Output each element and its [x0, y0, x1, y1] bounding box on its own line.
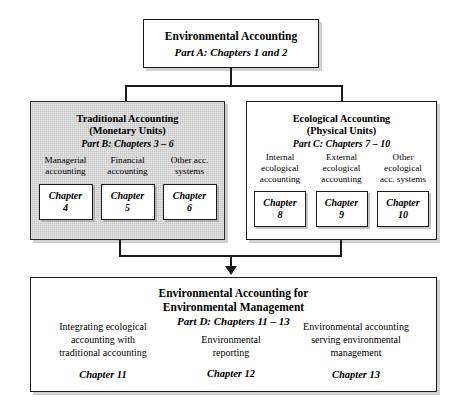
title-box-heading: Environmental Accounting: [144, 30, 318, 44]
chapter-box[interactable]: Chapter 9: [316, 191, 368, 227]
column-label: Financial accounting: [107, 155, 147, 177]
chapter-box[interactable]: Chapter 5: [101, 184, 155, 220]
connector-top-bus: [125, 85, 343, 87]
traditional-part: Part B: Chapters 3 – 6: [31, 138, 224, 150]
traditional-heading-line1: Traditional Accounting: [31, 113, 224, 125]
title-box: Environmental Accounting Part A: Chapter…: [143, 19, 319, 68]
bottom-column-2: Environmental reporting Chapter 12: [176, 333, 286, 379]
traditional-heading-line2: (Monetary Units): [31, 125, 224, 137]
bottom-column-3: Environmental accounting serving environ…: [286, 320, 426, 380]
connector-arrowhead-icon: [225, 266, 237, 275]
column-chapter: Chapter 11: [42, 369, 164, 380]
traditional-columns: Managerial accounting Chapter 4 Financia…: [36, 155, 219, 220]
column-chapter: Chapter 12: [176, 368, 286, 379]
ecological-column: External ecological accounting Chapter 9: [313, 152, 371, 227]
chapter-box[interactable]: Chapter 10: [377, 191, 429, 227]
column-label: Internal ecological accounting: [260, 152, 300, 186]
traditional-column: Managerial accounting Chapter 4: [36, 155, 95, 220]
column-label: Other ecological acc. systems: [380, 152, 426, 186]
diagram-canvas: Environmental Accounting Part A: Chapter…: [0, 0, 468, 409]
ecological-column: Other ecological acc. systems Chapter 10: [374, 152, 432, 227]
title-box-part: Part A: Chapters 1 and 2: [144, 46, 318, 59]
column-label: Environmental reporting: [176, 333, 286, 359]
traditional-column: Financial accounting Chapter 5: [98, 155, 157, 220]
bottom-heading-line2: Environmental Management: [31, 301, 436, 315]
bottom-column-1: Integrating ecological accounting with t…: [42, 320, 164, 380]
column-chapter: Chapter 13: [286, 369, 426, 380]
ecological-part: Part C: Chapters 7 – 10: [247, 138, 436, 150]
ecological-heading-line1: Ecological Accounting: [247, 113, 436, 125]
column-label: Environmental accounting serving environ…: [286, 320, 426, 360]
traditional-column: Other acc. systems Chapter 6: [160, 155, 219, 220]
ecological-column: Internal ecological accounting Chapter 8: [251, 152, 309, 227]
chapter-box[interactable]: Chapter 6: [163, 184, 217, 220]
chapter-box[interactable]: Chapter 4: [39, 184, 93, 220]
column-label: Managerial accounting: [45, 155, 87, 177]
column-label: Other acc. systems: [171, 155, 209, 177]
chapter-box[interactable]: Chapter 8: [254, 191, 306, 227]
ecological-heading-line2: (Physical Units): [247, 125, 436, 137]
column-label: Integrating ecological accounting with t…: [42, 320, 164, 360]
bottom-heading-line1: Environmental Accounting for: [31, 287, 436, 301]
column-label: External ecological accounting: [321, 152, 361, 186]
ecological-columns: Internal ecological accounting Chapter 8…: [251, 152, 432, 227]
